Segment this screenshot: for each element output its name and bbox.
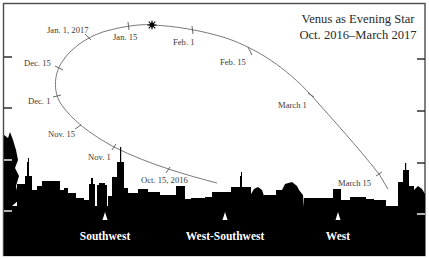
- date-label: Nov. 15: [48, 129, 75, 139]
- date-label: Feb. 1: [173, 37, 194, 47]
- title-line-2: Oct. 2016–March 2017: [299, 28, 416, 42]
- date-label: Jan. 15: [113, 32, 137, 42]
- direction-label-west: West: [326, 230, 350, 242]
- date-label: Jan. 1, 2017: [47, 25, 89, 35]
- direction-label-southwest: Southwest: [80, 230, 131, 242]
- star-icon: [148, 21, 157, 30]
- date-label: Dec. 15: [24, 58, 51, 68]
- date-label: March 15: [338, 178, 371, 188]
- date-label: Nov. 1: [88, 152, 111, 162]
- venus-chart: Oct. 15, 2016 Nov. 1 Nov. 15 Dec. 1 Dec.…: [0, 0, 429, 259]
- date-label: Feb. 15: [220, 57, 246, 67]
- direction-label-west-southwest: West-Southwest: [186, 230, 265, 242]
- date-label: Oct. 15, 2016: [141, 175, 188, 185]
- date-label: March 1: [278, 100, 307, 110]
- date-label: Dec. 1: [28, 96, 50, 106]
- title-line-1: Venus as Evening Star: [302, 12, 416, 26]
